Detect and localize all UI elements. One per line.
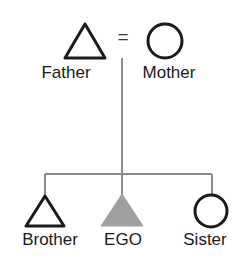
marriage-equals-symbol: = [112, 26, 134, 48]
father-label: Father [26, 63, 106, 83]
ego-triangle-icon [101, 194, 143, 226]
sister-label: Sister [167, 230, 243, 250]
brother-triangle-icon [26, 196, 64, 226]
kinship-diagram: = Father Mother Brother EGO Sister [0, 0, 245, 260]
ego-label: EGO [92, 230, 154, 250]
father-triangle-icon [65, 24, 105, 58]
sister-circle-icon [195, 195, 227, 227]
mother-label: Mother [126, 63, 212, 83]
brother-label: Brother [3, 230, 97, 250]
mother-circle-icon [148, 24, 182, 58]
